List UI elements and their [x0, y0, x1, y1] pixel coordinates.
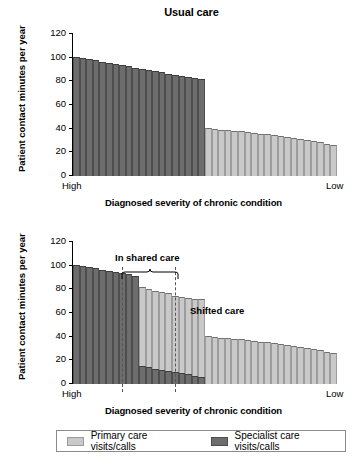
shared-care-right-boundary [175, 267, 176, 392]
bar [317, 241, 324, 384]
bar-segment-specialist [80, 266, 87, 384]
bar [86, 33, 93, 176]
bar [304, 241, 311, 384]
bar-segment-specialist [152, 71, 159, 176]
bar-segment-primary [278, 344, 285, 384]
plot-area-shared-shifted-care: 120 100 80 60 40 20 0 In shared care Shi… [0, 208, 363, 418]
bar [271, 33, 278, 176]
bar-segment-specialist [132, 276, 139, 384]
bar-segment-specialist [80, 58, 87, 176]
bar [278, 33, 285, 176]
bar [291, 33, 298, 176]
bar [106, 33, 113, 176]
bar [172, 33, 179, 176]
legend-label-primary: Primary care visits/calls [91, 430, 193, 452]
bar [139, 33, 146, 176]
bar-segment-primary [139, 287, 146, 366]
bar [113, 33, 120, 176]
bar-segment-primary [284, 345, 291, 384]
bar-segment-primary [284, 137, 291, 176]
bar-segment-specialist [152, 369, 159, 384]
bar-segment-primary [324, 144, 331, 176]
bar-segment-specialist [106, 63, 113, 176]
bar-segment-specialist [179, 76, 186, 176]
bar-segment-specialist [126, 274, 133, 384]
y-tick-label-top-60: 60 [40, 99, 66, 109]
bar-segment-primary [218, 338, 225, 384]
bar-segment-primary [146, 289, 153, 368]
bar-segment-specialist [106, 271, 113, 384]
bar-segment-primary [238, 339, 245, 384]
legend: Primary care visits/calls Specialist car… [56, 430, 346, 452]
x-axis-start-label-top: High [62, 180, 82, 191]
bar [304, 33, 311, 176]
bar-segment-specialist [146, 70, 153, 176]
bar-segment-primary [179, 297, 186, 373]
bar-segment-specialist [192, 78, 199, 176]
bar-segment-specialist [99, 62, 106, 176]
bar-segment-specialist [185, 77, 192, 176]
bar-segment-specialist [139, 69, 146, 176]
bar-segment-primary [297, 139, 304, 176]
shared-care-left-boundary [122, 267, 123, 392]
x-axis-end-label-bottom: Low [326, 388, 343, 399]
bar [251, 33, 258, 176]
annotation-in-shared-care: In shared care [115, 252, 179, 263]
bar [205, 33, 212, 176]
x-axis-start-label-bottom: High [62, 388, 82, 399]
bar-segment-specialist [179, 373, 186, 384]
bar [218, 33, 225, 176]
bar-segment-primary [225, 130, 232, 176]
bar [264, 33, 271, 176]
x-axis-end-label-top: Low [326, 180, 343, 191]
annotation-shifted-care: Shifted care [190, 305, 244, 316]
bar [330, 241, 337, 384]
bar-segment-specialist [165, 74, 172, 176]
bar-segment-primary [165, 293, 172, 370]
y-tick-label-top-100: 100 [40, 52, 66, 62]
bar [311, 241, 318, 384]
bar [258, 241, 265, 384]
x-axis-label-top: Diagnosed severity of chronic condition [12, 197, 363, 208]
bar-segment-specialist [86, 267, 93, 384]
bar-segment-primary [317, 350, 324, 384]
bar-segment-primary [205, 336, 212, 384]
bar-segment-primary [304, 140, 311, 176]
bar [159, 33, 166, 176]
y-tick-label-bottom-60: 60 [40, 307, 66, 317]
bar-segment-primary [212, 337, 219, 384]
bar-segment-specialist [73, 265, 80, 384]
chart-panel-shared-shifted-care: Patient contact minutes per year 120 100… [0, 208, 363, 418]
bar [278, 241, 285, 384]
bar-segment-specialist [113, 64, 120, 176]
y-tick-label-top-20: 20 [40, 146, 66, 156]
bar [284, 33, 291, 176]
bar-segment-specialist [192, 376, 199, 384]
bar-segment-primary [271, 343, 278, 384]
bar [93, 33, 100, 176]
bar-segment-primary [245, 132, 252, 176]
bar [324, 33, 331, 176]
bar [225, 33, 232, 176]
bar-segment-specialist [119, 65, 126, 176]
bar [251, 241, 258, 384]
bar [80, 33, 87, 176]
bar-segment-primary [212, 129, 219, 176]
bar [126, 33, 133, 176]
y-tick-label-top-0: 0 [40, 170, 66, 180]
bar [119, 33, 126, 176]
bar [198, 33, 205, 176]
bar [317, 33, 324, 176]
in-shared-care-brace-icon [121, 268, 179, 280]
bar [73, 33, 80, 176]
bar [93, 241, 100, 384]
bar [99, 33, 106, 176]
bar-segment-primary [330, 353, 337, 384]
bar-segment-specialist [73, 57, 80, 176]
bar [165, 33, 172, 176]
bar-segment-specialist [126, 66, 133, 176]
bar-segment-primary [231, 131, 238, 176]
legend-item-primary-care: Primary care visits/calls [67, 430, 193, 452]
bar-segment-specialist [132, 68, 139, 176]
bar [264, 241, 271, 384]
